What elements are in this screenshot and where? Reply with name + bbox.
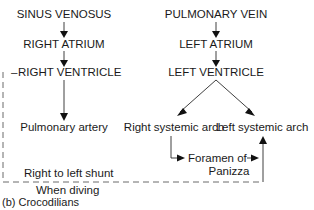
node-left-systemic-arch: Left systemic arch (216, 121, 309, 133)
node-pulmonary-artery: Pulmonary artery (20, 121, 108, 133)
arrow-right-atrium-to-right-ventricle (60, 51, 68, 67)
arrow-shunt-up-to-left-systemic-arch (259, 136, 267, 182)
foramen-connector-to-left-arch (247, 155, 259, 162)
node-sinus-venosus: SINUS VENOSUS (17, 8, 112, 20)
node-left-ventricle: LEFT VENTRICLE (168, 66, 264, 78)
shunt-condition-label: When diving (36, 184, 99, 196)
arrow-sinus-to-right-atrium (60, 22, 68, 38)
node-pulmonary-vein: PULMONARY VEIN (165, 8, 267, 20)
right-ventricle-shunt-dash: – (11, 66, 18, 78)
arrow-left-ventricle-to-right-systemic-arch (177, 80, 216, 116)
foramen-label-line1: Foramen of (188, 152, 248, 164)
arrow-left-atrium-to-left-ventricle (212, 51, 220, 67)
foramen-connector-from-right-arch (171, 136, 185, 162)
node-left-atrium: LEFT ATRIUM (179, 38, 253, 50)
arrow-right-ventricle-to-pulmonary-artery (60, 80, 68, 121)
arrow-left-ventricle-to-left-systemic-arch (216, 80, 255, 116)
node-right-ventricle: RIGHT VENTRICLE (18, 66, 122, 78)
node-right-systemic-arch: Right systemic arch (124, 121, 224, 133)
foramen-label-line2: Panizza (209, 165, 251, 177)
node-right-atrium: RIGHT ATRIUM (23, 38, 104, 50)
figure-caption: (b) Crocodilians (2, 196, 80, 208)
arrow-pulmonary-vein-to-left-atrium (212, 22, 220, 38)
shunt-label: Right to left shunt (24, 167, 114, 179)
crocodilian-circulation-diagram: SINUS VENOSUS RIGHT ATRIUM – RIGHT VENTR… (0, 0, 314, 210)
